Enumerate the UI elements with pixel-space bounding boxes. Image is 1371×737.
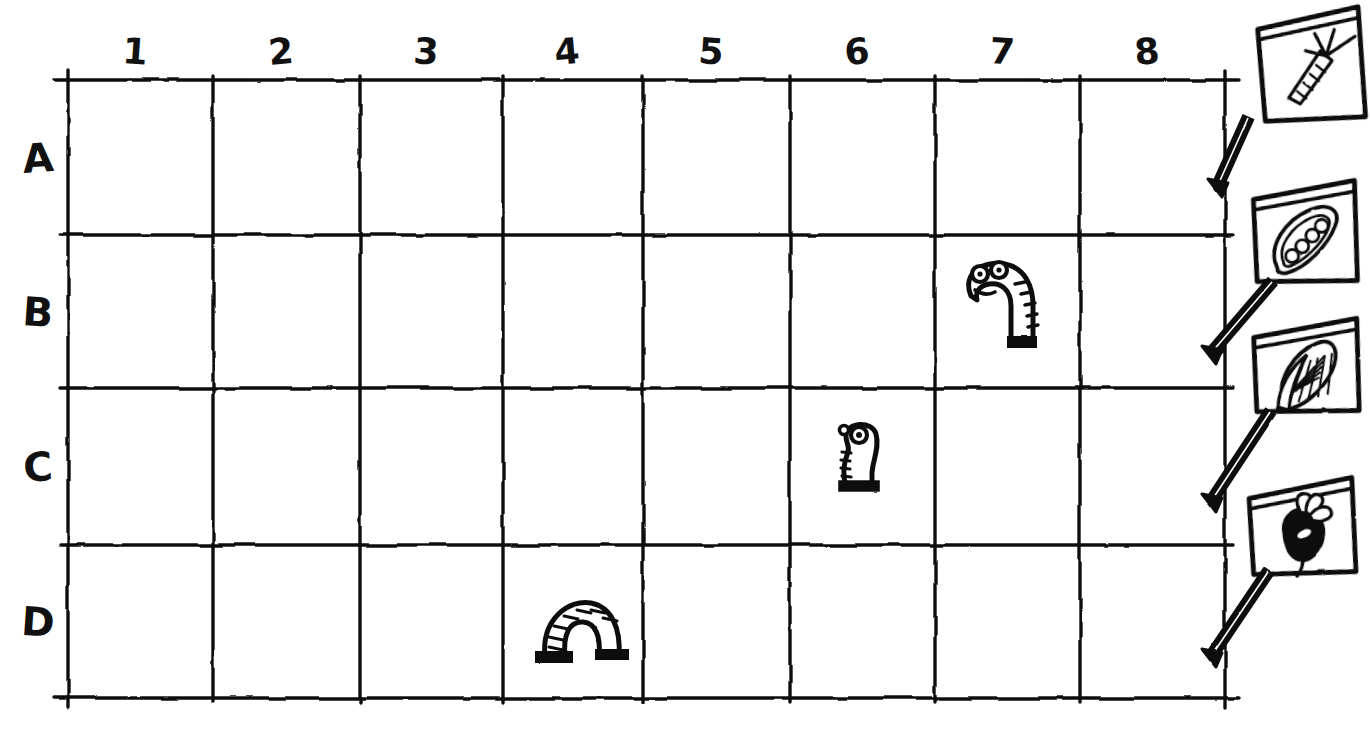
- pea-seed: [1315, 219, 1329, 233]
- pea-packet[interactable]: [1251, 180, 1362, 287]
- grid-cell-B1[interactable]: [68, 235, 213, 388]
- grid-cell-C5[interactable]: [643, 388, 790, 545]
- row-label-D: D: [7, 599, 70, 643]
- column-label-7: 7: [970, 32, 1032, 72]
- grid-cell-B6[interactable]: [790, 235, 935, 388]
- grid-cell-A1[interactable]: [68, 80, 213, 235]
- column-label-5: 5: [679, 32, 741, 72]
- worksheet-canvas: 12345678 ABCD: [0, 0, 1371, 737]
- grid-cell-C1[interactable]: [68, 388, 213, 545]
- grid-cell-C7[interactable]: [935, 388, 1080, 545]
- carrot-packet[interactable]: [1255, 7, 1370, 127]
- grid-cell-A2[interactable]: [213, 80, 360, 235]
- grid-cell-C8[interactable]: [1080, 388, 1225, 545]
- column-label-6: 6: [825, 31, 888, 72]
- grid-cell-C4[interactable]: [503, 388, 643, 545]
- grid-cell-D8[interactable]: [1080, 545, 1225, 698]
- column-label-4: 4: [536, 31, 599, 72]
- grid-cell-A7[interactable]: [935, 80, 1080, 235]
- row-label-A: A: [7, 135, 70, 179]
- grid-cell-D1[interactable]: [68, 545, 213, 698]
- beet-packet[interactable]: [1246, 478, 1360, 581]
- grid-cell-D5[interactable]: [643, 545, 790, 698]
- grid-cell-D4[interactable]: [503, 545, 643, 698]
- seed-packet-layer: [1202, 7, 1369, 667]
- column-label-3: 3: [394, 32, 456, 72]
- corn-packet[interactable]: [1251, 318, 1363, 417]
- grid-cell-A3[interactable]: [360, 80, 503, 235]
- grid-cell-D3[interactable]: [360, 545, 503, 698]
- grid-cell-C6[interactable]: [790, 388, 935, 545]
- row-label-C: C: [7, 444, 70, 488]
- grid-cell-D6[interactable]: [790, 545, 935, 698]
- grid-cell-A5[interactable]: [643, 80, 790, 235]
- grid-cell-C2[interactable]: [213, 388, 360, 545]
- grid-cell-B4[interactable]: [503, 235, 643, 388]
- grid-cell-D2[interactable]: [213, 545, 360, 698]
- grid-cell-B3[interactable]: [360, 235, 503, 388]
- column-label-8: 8: [1115, 31, 1178, 72]
- grid-cell-B5[interactable]: [643, 235, 790, 388]
- grid-cell-D7[interactable]: [935, 545, 1080, 698]
- grid-cell-B7[interactable]: [935, 235, 1080, 388]
- grid-cell-C3[interactable]: [360, 388, 503, 545]
- row-label-B: B: [7, 289, 70, 333]
- grid-cell-A6[interactable]: [790, 80, 935, 235]
- column-label-2: 2: [249, 31, 312, 72]
- column-label-1: 1: [103, 32, 165, 72]
- grid-cell-A8[interactable]: [1080, 80, 1225, 235]
- grid-cell-B8[interactable]: [1080, 235, 1225, 388]
- grid-cell-A4[interactable]: [503, 80, 643, 235]
- grid-cell-B2[interactable]: [213, 235, 360, 388]
